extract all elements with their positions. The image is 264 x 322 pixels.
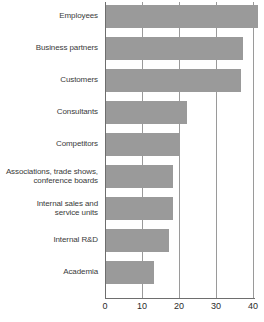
bar-row: Employees — [0, 0, 264, 32]
category-label: Academia — [2, 267, 98, 277]
bar — [106, 69, 241, 92]
category-label: Competitors — [2, 139, 98, 149]
bar — [106, 101, 187, 124]
bar — [106, 5, 258, 28]
x-tick-label: 30 — [203, 301, 229, 311]
x-tick-label: 10 — [129, 301, 155, 311]
bar-row: Business partners — [0, 32, 264, 64]
bar-rows: EmployeesBusiness partnersCustomersConsu… — [0, 0, 264, 299]
bar — [106, 37, 243, 60]
bar-row: Internal R&D — [0, 224, 264, 256]
x-tick-label: 20 — [166, 301, 192, 311]
bar — [106, 261, 154, 284]
bar-row: Associations, trade shows, conference bo… — [0, 160, 264, 192]
bar-row: Academia — [0, 256, 264, 288]
category-label: Consultants — [2, 107, 98, 117]
bar — [106, 165, 173, 188]
category-label: Customers — [2, 75, 98, 85]
bar — [106, 229, 169, 252]
bar-row: Customers — [0, 64, 264, 96]
category-label: Internal sales and service units — [2, 199, 98, 218]
bar-chart: EmployeesBusiness partnersCustomersConsu… — [0, 0, 264, 322]
bar — [106, 197, 173, 220]
bar-row: Competitors — [0, 128, 264, 160]
x-tick-label: 40 — [240, 301, 264, 311]
bar-row: Consultants — [0, 96, 264, 128]
category-label: Employees — [2, 11, 98, 21]
x-tick-label: 0 — [92, 301, 118, 311]
bar-row: Internal sales and service units — [0, 192, 264, 224]
bar — [106, 133, 180, 156]
category-label: Associations, trade shows, conference bo… — [2, 167, 98, 186]
category-label: Internal R&D — [2, 235, 98, 245]
category-label: Business partners — [2, 43, 98, 53]
x-axis-tick-labels: 010203040 — [0, 301, 264, 319]
